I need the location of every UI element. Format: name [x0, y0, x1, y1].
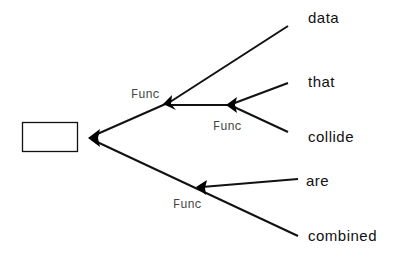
edge-that [232, 83, 288, 104]
tree-diagram: Func Func Func data that collide are com… [0, 0, 403, 253]
upper-arrow-icon [163, 95, 176, 110]
func-label-upper: Func [131, 88, 160, 102]
edge-are [202, 179, 298, 187]
func-label-lower: Func [173, 198, 202, 212]
edge-root-lower [95, 141, 298, 236]
root-box [23, 123, 78, 152]
leaf-label-are: are [306, 172, 329, 189]
leaf-label-that: that [308, 73, 335, 90]
root-arrow-icon [88, 129, 100, 147]
func-label-mid: Func [213, 120, 242, 134]
leaf-label-combined: combined [308, 227, 377, 244]
edge-root-upper [95, 102, 170, 135]
mid-arrow-icon [226, 97, 237, 113]
leaf-label-collide: collide [308, 128, 354, 145]
leaf-label-data: data [308, 9, 339, 26]
